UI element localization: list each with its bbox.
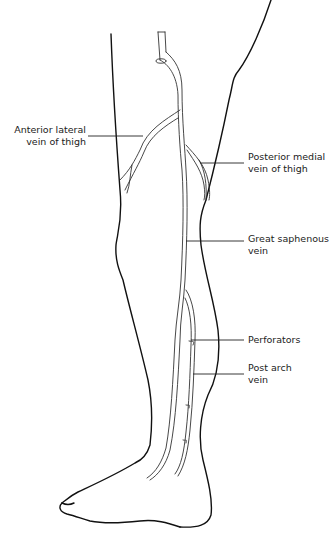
vein-network	[120, 32, 210, 480]
label-line: Great saphenous	[248, 233, 329, 245]
label-line: vein	[248, 374, 292, 386]
label-line: vein of thigh	[248, 163, 325, 175]
label-posterior-medial-vein: Posterior medial vein of thigh	[248, 151, 325, 175]
label-line: Post arch	[248, 362, 292, 374]
leg-vein-diagram	[0, 0, 335, 536]
leader-lines	[88, 136, 244, 374]
label-perforators: Perforators	[248, 334, 300, 346]
leg-outline	[60, 0, 271, 527]
label-great-saphenous-vein: Great saphenous vein	[248, 233, 329, 257]
label-anterior-lateral-vein: Anterior lateral vein of thigh	[8, 124, 86, 148]
label-post-arch-vein: Post arch vein	[248, 362, 292, 386]
label-line: vein of thigh	[8, 136, 86, 148]
label-line: Perforators	[248, 334, 300, 346]
label-line: Anterior lateral	[8, 124, 86, 136]
label-line: Posterior medial	[248, 151, 325, 163]
label-line: vein	[248, 245, 329, 257]
